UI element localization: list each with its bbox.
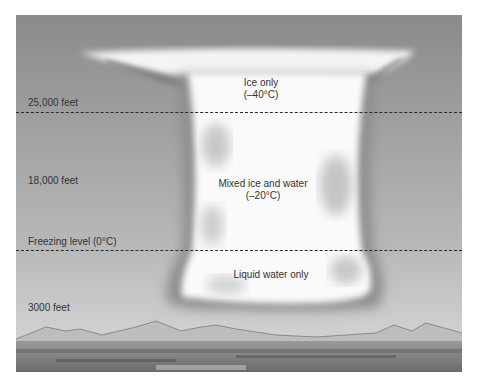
altitude-label-25000: 25,000 feet (28, 97, 78, 108)
zone-mixed: Mixed ice and water (–20°C) (219, 178, 308, 202)
freezing-level-line (16, 250, 462, 251)
zone-mixed-title: Mixed ice and water (219, 178, 308, 190)
zone-liquid-title: Liquid water only (233, 269, 308, 281)
altitude-line-25000 (16, 112, 462, 113)
zone-mixed-temp: (–20°C) (219, 190, 308, 202)
altitude-label-3000: 3000 feet (28, 302, 70, 313)
altitude-label-18000: 18,000 feet (28, 175, 78, 186)
zone-ice-only-temp: (–40°C) (244, 89, 279, 101)
zone-ice-only: Ice only (–40°C) (244, 77, 279, 101)
zone-liquid: Liquid water only (233, 269, 308, 281)
freezing-level-label: Freezing level (0°C) (28, 236, 116, 247)
cloud-diagram: 25,000 feet 18,000 feet Freezing level (… (16, 15, 462, 372)
zone-ice-only-title: Ice only (244, 77, 279, 89)
